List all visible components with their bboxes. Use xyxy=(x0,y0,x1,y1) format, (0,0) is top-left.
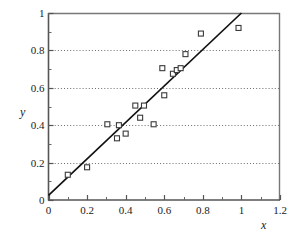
x-tick-label: 1 xyxy=(239,205,245,216)
data-point-marker xyxy=(162,93,167,98)
y-tick-label: 0.4 xyxy=(31,120,45,131)
y-tick-label: 0.6 xyxy=(31,82,45,93)
data-point-marker xyxy=(116,123,121,128)
data-point-marker xyxy=(123,131,128,136)
data-point-marker xyxy=(133,103,138,108)
y-axis-title: y xyxy=(20,106,25,118)
data-point-marker xyxy=(85,165,90,170)
x-tick-label: 1.2 xyxy=(273,205,287,216)
data-point-marker xyxy=(138,115,143,120)
scatter-plot-figure: 00.20.40.60.811.2 00.20.40.60.81 y x xyxy=(0,0,306,236)
data-point-marker xyxy=(236,25,241,30)
plot-frame xyxy=(48,13,280,201)
data-point-marker xyxy=(160,66,165,71)
data-point-marker xyxy=(65,172,70,177)
y-tick-label: 0.8 xyxy=(31,45,45,56)
data-point-marker xyxy=(178,66,183,71)
y-tick-label: 0.2 xyxy=(31,157,45,168)
x-tick-label: 0.2 xyxy=(80,205,94,216)
x-tick-label: 0.8 xyxy=(196,205,210,216)
data-point-marker xyxy=(141,103,146,108)
data-point-marker xyxy=(105,122,110,127)
plot-canvas xyxy=(0,0,306,236)
x-tick-label: 0.4 xyxy=(119,205,133,216)
x-axis-title: x xyxy=(261,219,266,231)
y-tick-label: 1 xyxy=(39,8,45,19)
data-point-marker xyxy=(114,136,119,141)
x-tick-label: 0.6 xyxy=(157,205,171,216)
x-tick-label: 0 xyxy=(46,205,52,216)
data-point-marker xyxy=(183,52,188,57)
data-point-marker xyxy=(198,31,203,36)
y-tick-label: 0 xyxy=(39,195,45,206)
data-point-marker xyxy=(151,122,156,127)
